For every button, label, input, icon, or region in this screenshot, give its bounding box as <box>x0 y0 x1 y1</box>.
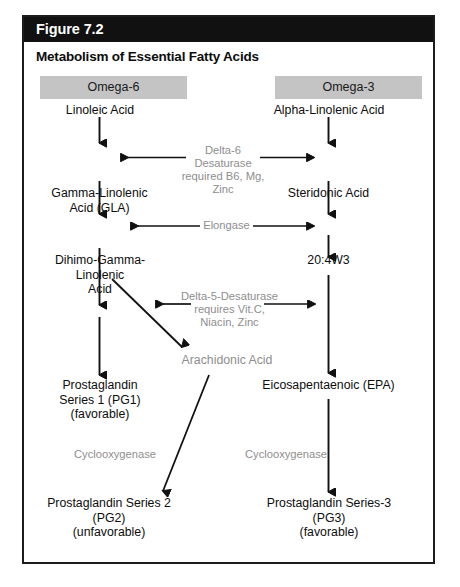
node-dihomo-gamma-linolenic-acid: Dihimo-Gamma- Linolenic Acid <box>35 253 165 297</box>
enzyme-cyclooxygenase-left: Cyclooxygenase <box>65 448 165 461</box>
node-steridonic-acid: Steridonic Acid <box>267 186 390 201</box>
node-arachidonic-acid: Arachidonic Acid <box>165 353 289 368</box>
enzyme-cyclooxygenase-right: Cyclooxygenase <box>236 448 336 461</box>
node-alpha-linolenic-acid: Alpha-Linolenic Acid <box>260 103 398 118</box>
figure-card: Figure 7.2 Metabolism of Essential Fatty… <box>22 15 435 564</box>
node-linoleic-acid: Linoleic Acid <box>40 103 160 118</box>
node-20-4w3: 20:4W3 <box>290 253 367 268</box>
enzyme-delta-6-desaturase: Delta-6 Desaturase required B6, Mg, Zinc <box>177 144 269 196</box>
node-prostaglandin-series-3: Prostaglandin Series-3 (PG3) (favorable) <box>250 496 408 540</box>
node-prostaglandin-series-1: Prostaglandin Series 1 (PG1) (favorable) <box>38 378 162 422</box>
enzyme-delta-5-desaturase: Delta-5-Desaturase requires Vit.C, Niaci… <box>181 290 278 329</box>
node-prostaglandin-series-2: Prostaglandin Series 2 (PG2) (unfavorabl… <box>30 496 188 540</box>
enzyme-elongase: Elongase <box>196 219 257 232</box>
node-gamma-linolenic-acid: Gamma-Linolenic Acid (GLA) <box>32 186 167 215</box>
node-eicosapentaenoic-epa: Eicosapentaenoic (EPA) <box>255 378 402 393</box>
